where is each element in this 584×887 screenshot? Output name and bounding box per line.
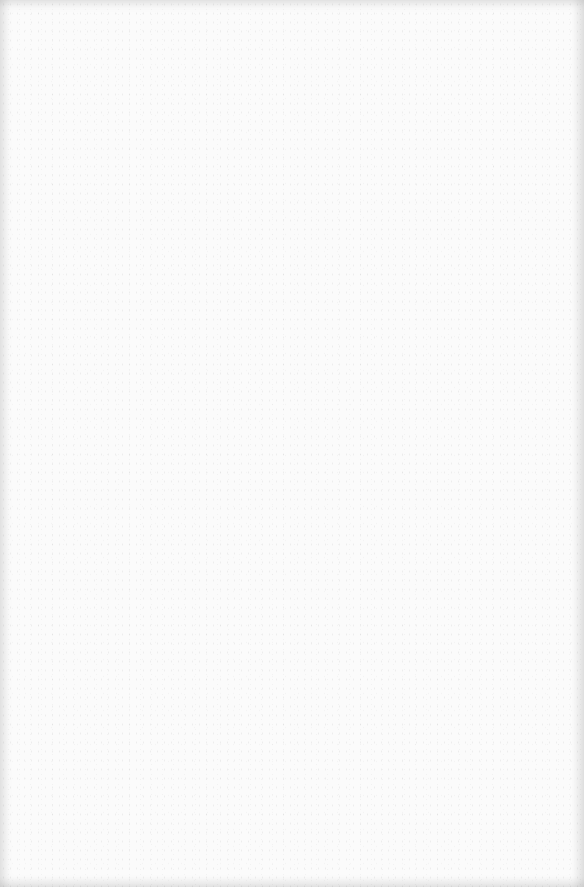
page-content — [0, 0, 584, 887]
blank-paper-page — [0, 0, 584, 887]
